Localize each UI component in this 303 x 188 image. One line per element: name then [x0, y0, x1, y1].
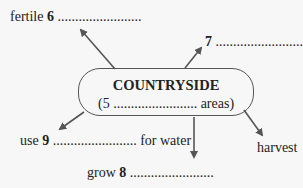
answer-blank[interactable]: ........................ — [126, 165, 214, 180]
node-fertile: fertile 6 ........................ — [10, 9, 141, 25]
arrow-to-harvest — [244, 110, 262, 135]
center-subtitle: (5 ........................ areas) — [79, 96, 253, 112]
answer-blank[interactable]: ........................ — [49, 133, 137, 148]
subtitle-suffix: areas) — [201, 96, 234, 111]
node-prefix: fertile — [10, 9, 47, 24]
arrow-to-seven — [185, 48, 201, 68]
question-number: 5 — [103, 96, 110, 111]
answer-blank[interactable]: ........................ — [54, 9, 142, 24]
node-prefix: use — [20, 133, 42, 148]
arrow-to-fertile — [81, 30, 115, 69]
node-seven: 7 ......................... — [205, 34, 303, 50]
answer-blank[interactable]: ......................... — [212, 34, 303, 49]
countryside-box: COUNTRYSIDE (5 ........................ … — [78, 68, 254, 116]
question-number: 6 — [47, 9, 54, 24]
node-use: use 9 ........................ for water — [20, 133, 191, 149]
center-title: COUNTRYSIDE — [79, 77, 253, 93]
node-prefix: harvest — [257, 140, 297, 155]
node-suffix: for water — [137, 133, 191, 148]
node-prefix: grow — [87, 165, 119, 180]
node-harvest: harvest — [257, 140, 297, 156]
node-grow: grow 8 ........................ — [87, 165, 214, 181]
question-number: 7 — [205, 34, 212, 49]
arrow-to-use — [60, 112, 84, 129]
answer-blank[interactable]: ........................ — [110, 96, 201, 111]
